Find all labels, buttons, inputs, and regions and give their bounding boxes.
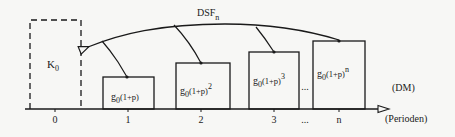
connector-dots bbox=[125, 39, 340, 78]
period-2-label: g0(1+p)2 bbox=[180, 82, 212, 99]
period-1-label: g0(1+p) bbox=[111, 91, 139, 105]
tick-label-3: 3 bbox=[272, 114, 277, 125]
tick-label-0: 0 bbox=[53, 114, 58, 125]
axis-label: (Perioden) bbox=[385, 113, 427, 125]
curve-label: DSFn bbox=[197, 7, 219, 22]
between-boxes-ellipsis: ... bbox=[301, 81, 309, 92]
period-n-label: g0(1+p)n bbox=[317, 65, 349, 82]
tick-label-n: n bbox=[337, 114, 342, 125]
initial-capital-label: K0 bbox=[47, 58, 59, 73]
tick-label-2: 2 bbox=[199, 114, 204, 125]
tick-label-1: 1 bbox=[126, 114, 131, 125]
unit-label: (DM) bbox=[392, 82, 415, 94]
discount-curve bbox=[88, 24, 339, 47]
curve-connectors bbox=[102, 25, 274, 77]
tick-label-ellipsis: ... bbox=[301, 114, 309, 125]
compounding-diagram: 0 1 2 3 ... n K0 g0(1+p) g0(1+p)2 g0(1+p… bbox=[0, 0, 455, 137]
period-3-label: g0(1+p)3 bbox=[253, 72, 285, 89]
axis-arrowhead-icon bbox=[378, 106, 389, 113]
